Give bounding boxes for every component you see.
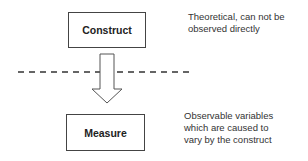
construct-note-line: Theoretical, can not be [188,11,306,23]
measure-note-line: vary by the construct [184,134,306,146]
construct-label: Construct [82,24,132,36]
construct-note: Theoretical, can not be observed directl… [188,11,306,35]
measure-note-line: which are caused to [184,122,306,134]
construct-box: Construct [68,12,146,48]
measure-label: Measure [84,127,127,139]
measure-note-line: Observable variables [184,110,306,122]
measure-box: Measure [66,114,145,151]
causal-arrow-icon [92,54,122,103]
construct-note-line: observed directly [188,23,306,35]
measure-note: Observable variables which are caused to… [184,110,306,146]
